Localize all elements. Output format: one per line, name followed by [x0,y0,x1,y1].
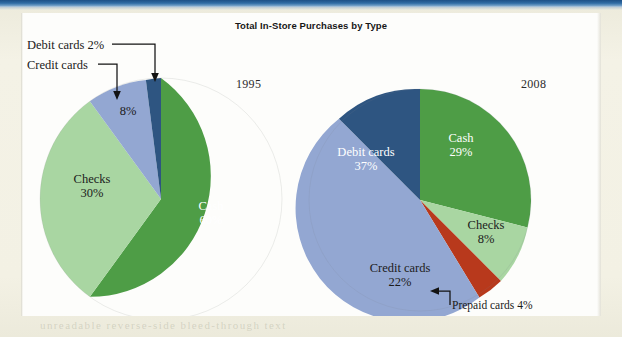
slice-label-1995-credit-pct: 8% [108,104,148,118]
slice-label-1995-cash-pct: 60% [176,213,246,227]
slice-label-2008-cash: Cash 29% [432,131,490,159]
slice-label-1995-cash: Cash 60% [176,199,246,227]
page-bleed-through-text: unreadable reverse-side bleed-through te… [40,319,560,332]
year-label-1995: 1995 [236,77,261,92]
slice-label-1995-checks: Checks 30% [55,172,129,200]
slice-label-2008-debit-cards: Debit cards 37% [315,145,417,173]
slice-label-2008-debit-cards-name: Debit cards [315,145,417,159]
callout-debit-cards-1995: Debit cards 2% [27,38,104,53]
slice-label-2008-cash-name: Cash [432,131,490,145]
slice-label-2008-checks: Checks 8% [455,218,517,246]
slice-label-1995-checks-pct: 30% [55,186,129,200]
slice-label-2008-cash-pct: 29% [432,145,490,159]
leader-line-debit-1995 [112,44,155,74]
slice-label-1995-checks-name: Checks [55,172,129,186]
slice-label-2008-checks-name: Checks [455,218,517,232]
slice-label-2008-credit-cards-pct: 22% [348,275,452,289]
slice-label-2008-debit-cards-pct: 37% [315,159,417,173]
slice-label-2008-checks-pct: 8% [455,232,517,246]
slice-label-2008-credit-cards-name: Credit cards [348,261,452,275]
year-label-2008: 2008 [521,77,546,92]
slice-label-2008-credit-cards: Credit cards 22% [348,261,452,289]
slice-label-1995-credit-pct-value: 8% [108,104,148,118]
figure-root: Total In-Store Purchases by Type [0,0,622,337]
callout-credit-cards-1995: Credit cards [27,58,88,73]
slice-label-1995-cash-name: Cash [176,199,246,213]
callout-prepaid-cards-2008: Prepaid cards 4% [452,299,532,311]
